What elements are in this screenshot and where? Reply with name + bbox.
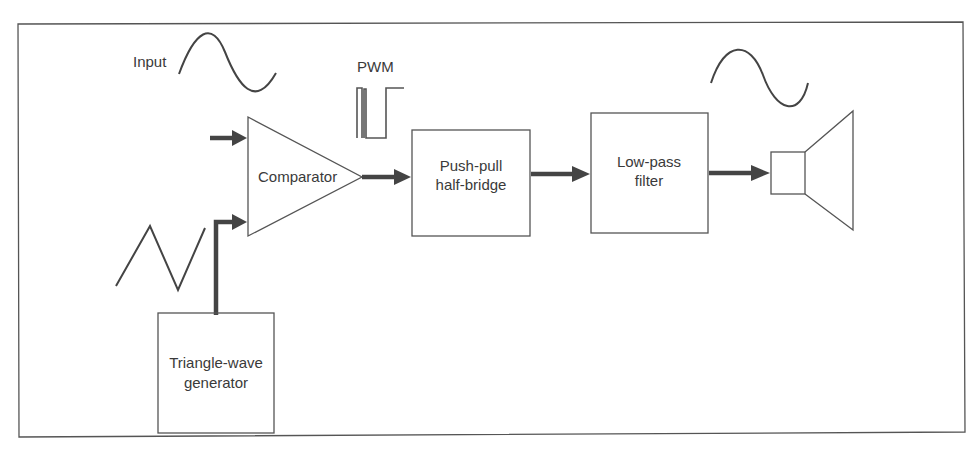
low-pass-label-line2: filter bbox=[635, 172, 663, 189]
triangle-wave-generator-block bbox=[158, 313, 274, 433]
comparator-label: Comparator bbox=[258, 168, 337, 185]
speaker-icon bbox=[771, 111, 853, 230]
arrowhead-icon bbox=[232, 130, 247, 146]
pwm-waveform-icon bbox=[357, 88, 404, 138]
arrowhead-icon bbox=[751, 165, 770, 181]
low-pass-label-line1: Low-pass bbox=[617, 153, 681, 170]
pwm-label: PWM bbox=[357, 58, 394, 75]
class-d-amplifier-diagram: Input PWM Comparator Triangle-wave gener… bbox=[0, 0, 967, 461]
input-sine-wave-icon bbox=[179, 33, 276, 91]
triangle-feed-line bbox=[216, 222, 234, 315]
output-sine-wave-icon bbox=[711, 50, 808, 107]
arrowhead-icon bbox=[572, 166, 590, 182]
arrowhead-icon bbox=[232, 214, 247, 230]
push-pull-label-line2: half-bridge bbox=[436, 176, 507, 193]
triangle-wave-icon bbox=[116, 226, 205, 290]
arrowhead-icon bbox=[394, 169, 411, 185]
triangle-generator-label-line2: generator bbox=[184, 374, 248, 391]
triangle-generator-label-line1: Triangle-wave bbox=[169, 354, 263, 371]
figure-frame bbox=[18, 22, 965, 437]
push-pull-label-line1: Push-pull bbox=[440, 157, 503, 174]
input-label: Input bbox=[133, 53, 167, 70]
